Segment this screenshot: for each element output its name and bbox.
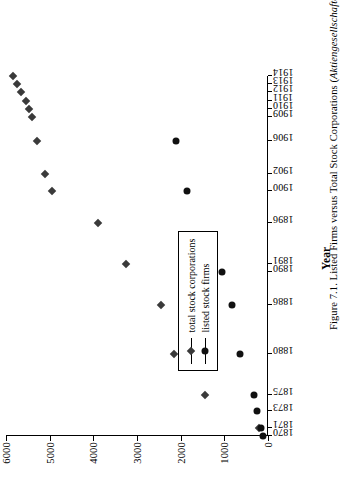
x-tick xyxy=(268,83,272,84)
data-point xyxy=(228,302,235,309)
x-tick-label: 1896 xyxy=(273,214,293,225)
x-tick xyxy=(268,190,272,191)
data-point xyxy=(218,269,225,276)
x-tick xyxy=(268,410,272,411)
x-tick xyxy=(268,435,272,436)
data-point xyxy=(237,351,244,358)
data-point xyxy=(257,424,264,431)
legend-label: listed stock firms xyxy=(199,264,212,333)
x-tick-label: 1880 xyxy=(273,345,293,356)
x-tick xyxy=(268,91,272,92)
x-tick-label: 1871 xyxy=(273,418,293,429)
x-tick xyxy=(268,173,272,174)
y-tick-label: 4000 xyxy=(88,442,99,464)
x-tick-label: 1886 xyxy=(273,296,293,307)
y-tick-label: 5000 xyxy=(44,442,55,464)
x-tick xyxy=(268,108,272,109)
legend-label: total stock corporations xyxy=(185,239,198,333)
x-tick xyxy=(268,427,272,428)
x-tick-label: 1900 xyxy=(273,181,293,192)
data-point xyxy=(253,408,260,415)
data-point xyxy=(259,433,266,440)
legend-marker-diamond-icon xyxy=(186,338,196,364)
y-tick xyxy=(224,436,225,441)
y-tick xyxy=(6,436,7,441)
legend-item-total-stock-corporations: total stock corporations xyxy=(184,239,198,364)
x-tick xyxy=(268,304,272,305)
x-tick xyxy=(268,75,272,76)
y-tick xyxy=(50,436,51,441)
x-tick xyxy=(268,394,272,395)
x-tick xyxy=(268,263,272,264)
data-point xyxy=(173,138,180,145)
x-tick-label: 1914 xyxy=(273,67,293,78)
y-tick-label: 3000 xyxy=(132,442,143,464)
x-tick xyxy=(268,100,272,101)
x-axis-line xyxy=(267,76,268,436)
data-point xyxy=(184,187,191,194)
x-tick xyxy=(268,140,272,141)
x-tick xyxy=(268,271,272,272)
x-tick xyxy=(268,353,272,354)
x-tick-label: 1875 xyxy=(273,386,293,397)
y-tick xyxy=(93,436,94,441)
y-tick-label: 1000 xyxy=(219,442,230,464)
x-tick-label: 1906 xyxy=(273,132,293,143)
data-point xyxy=(250,392,257,399)
x-tick-label: 1902 xyxy=(273,165,293,176)
x-tick xyxy=(268,222,272,223)
y-tick xyxy=(268,436,269,441)
y-tick xyxy=(137,436,138,441)
x-tick-label: 1891 xyxy=(273,255,293,266)
legend-marker-circle-icon xyxy=(200,338,210,364)
y-tick-label: 6000 xyxy=(1,442,12,464)
figure-caption: Figure 7.1. Listed Firms versus Total St… xyxy=(328,0,344,330)
y-tick-label: 0 xyxy=(263,442,274,447)
x-tick-label: 1873 xyxy=(273,402,293,413)
legend-item-listed-stock-firms: listed stock firms xyxy=(198,239,212,364)
x-tick xyxy=(268,116,272,117)
scatter-plot: 0100020003000400050006000 18701871187318… xyxy=(6,76,268,436)
y-tick xyxy=(181,436,182,441)
chart-legend: total stock corporations listed stock fi… xyxy=(178,231,218,371)
y-tick-label: 2000 xyxy=(175,442,186,464)
plot-axes xyxy=(6,76,268,436)
